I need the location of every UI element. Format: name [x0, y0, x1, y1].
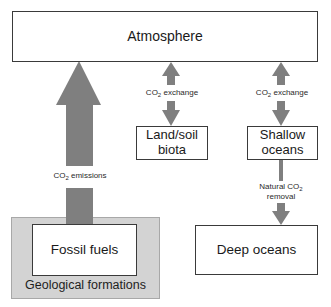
land-soil-biota-label-line1: Land/soil: [146, 128, 198, 143]
natural-removal-sub: 2: [299, 186, 302, 192]
atmosphere-label: Atmosphere: [127, 28, 202, 44]
land-exchange-label: CO2 exchange: [136, 88, 208, 98]
shallow-oceans-label-line1: Shallow: [260, 128, 306, 143]
land-soil-biota-node: Land/soil biota: [136, 126, 208, 160]
natural-removal-line2: removal: [246, 192, 316, 202]
ocean-exchange-prefix: CO: [256, 88, 268, 97]
land-exchange-suffix: exchange: [161, 88, 198, 97]
natural-removal-line1: Natural CO2: [246, 182, 316, 192]
deep-oceans-node: Deep oceans: [195, 225, 318, 275]
ocean-exchange-suffix: exchange: [271, 88, 308, 97]
co2-emissions-suffix: emissions: [69, 171, 107, 180]
atmosphere-node: Atmosphere: [12, 11, 318, 62]
shallow-oceans-label-line2: oceans: [262, 143, 304, 158]
deep-oceans-label: Deep oceans: [217, 242, 297, 258]
fossil-fuels-label: Fossil fuels: [51, 242, 119, 258]
co2-emissions-prefix: CO: [53, 171, 65, 180]
land-exchange-prefix: CO: [146, 88, 158, 97]
co2-emissions-arrow: [56, 61, 101, 225]
shallow-oceans-node: Shallow oceans: [247, 126, 318, 160]
land-soil-biota-label-line2: biota: [158, 143, 186, 158]
ocean-exchange-label: CO2 exchange: [246, 88, 318, 98]
co2-emissions-label: CO2 emissions: [40, 171, 120, 181]
fossil-fuels-node: Fossil fuels: [32, 224, 137, 276]
natural-removal-prefix: Natural CO: [259, 182, 299, 191]
natural-removal-label: Natural CO2 removal: [246, 182, 316, 202]
